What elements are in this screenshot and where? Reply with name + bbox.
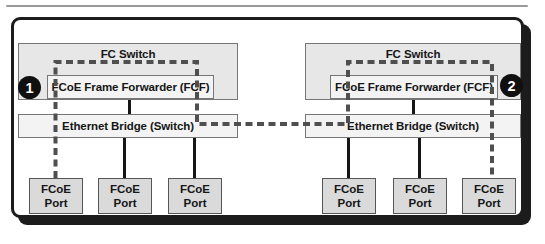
fcoe-architecture-diagram: FC Switch FC Switch FCoE Frame Forwarder… [0, 0, 545, 244]
callout-2-badge: 2 [500, 74, 523, 97]
fcoe-port-box-left-3: FCoE Port [168, 178, 222, 214]
connector-line-right-port1 [347, 137, 350, 179]
fcf-label-right: FCoE Frame Forwarder (FCF) [335, 81, 493, 94]
fcoe-port-box-left-1: FCoE Port [29, 178, 83, 214]
callout-1-badge: 1 [18, 76, 41, 99]
ethernet-bridge-box-left: Ethernet Bridge (Switch) [18, 114, 238, 138]
fcoe-port-label: Port [409, 196, 432, 210]
fcf-box-right: FCoE Frame Forwarder (FCF) [330, 75, 498, 99]
ethernet-bridge-label-right: Ethernet Bridge (Switch) [347, 120, 479, 133]
callout-2-label: 2 [507, 78, 515, 94]
fcoe-port-box-left-2: FCoE Port [98, 178, 152, 214]
fcoe-port-box-right-3: FCoE Port [462, 178, 516, 214]
fcoe-port-box-right-1: FCoE Port [322, 178, 376, 214]
fcoe-port-label: Port [114, 196, 137, 210]
fcf-box-left: FCoE Frame Forwarder (FCF) [47, 75, 214, 99]
fcoe-port-label: Port [338, 196, 361, 210]
top-rule [6, 5, 528, 7]
ethernet-bridge-box-right: Ethernet Bridge (Switch) [305, 114, 521, 138]
fcoe-port-label: FCoE [110, 182, 140, 196]
fcoe-port-label: Port [184, 196, 207, 210]
fcoe-port-label: FCoE [405, 182, 435, 196]
fcoe-port-label: FCoE [41, 182, 71, 196]
fcf-label-left: FCoE Frame Forwarder (FCF) [52, 81, 210, 94]
connector-line-left-port2 [123, 137, 126, 179]
fcoe-port-box-right-2: FCoE Port [393, 178, 447, 214]
ethernet-bridge-label-left: Ethernet Bridge (Switch) [62, 120, 194, 133]
fcoe-port-label: FCoE [474, 182, 504, 196]
fcoe-port-label: FCoE [334, 182, 364, 196]
fc-switch-label-right: FC Switch [306, 48, 520, 61]
fc-switch-label-left: FC Switch [19, 48, 237, 61]
fcoe-port-label: Port [45, 196, 68, 210]
callout-1-label: 1 [25, 80, 33, 96]
fcoe-port-label: FCoE [180, 182, 210, 196]
connector-line-left-port3 [193, 137, 196, 179]
connector-line-right-port2 [418, 137, 421, 179]
fcoe-port-label: Port [478, 196, 501, 210]
